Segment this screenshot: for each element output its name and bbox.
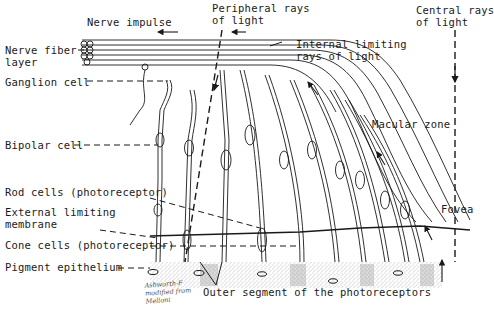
label-macular-zone: Macular zone (372, 118, 450, 130)
label-fovea: Fovea (441, 203, 474, 215)
label-ganglion-cell: Ganglion cell (5, 76, 90, 88)
artist-signature: Ashworth-F modified from Melloni (144, 278, 192, 305)
label-central-rays: Central rays of light (416, 4, 494, 28)
label-rod-cells: Rod cells (photoreceptor) (5, 186, 168, 198)
label-peripheral-rays: Peripheral rays of light (212, 2, 310, 26)
external-limiting-membrane-line (150, 226, 470, 236)
label-internal-limiting: Internal limiting rays of light (296, 38, 407, 62)
label-nerve-fiber-layer: Nerve fiber layer (5, 44, 77, 68)
label-external-limiting-membrane: External limiting membrane (5, 206, 116, 230)
pigment-epithelium-layer (148, 262, 442, 288)
label-nerve-impulse: Nerve impulse (87, 16, 172, 28)
label-bipolar-cell: Bipolar cell (5, 139, 83, 151)
label-outer-segment: Outer segment of the photoreceptors (203, 286, 431, 298)
label-cone-cells: Cone cells (photoreceptor) (5, 239, 175, 251)
label-pigment-epithelium: Pigment epithelium (5, 261, 122, 273)
